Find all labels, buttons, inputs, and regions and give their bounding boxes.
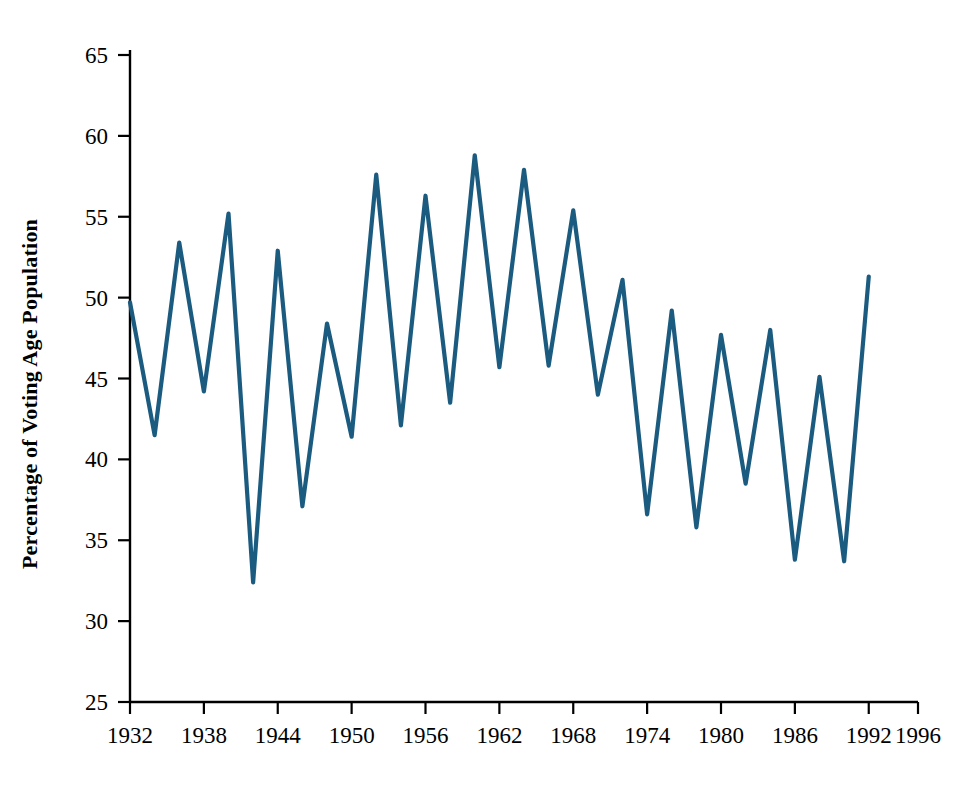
- x-tick-label: 1996: [895, 723, 941, 748]
- line-chart-plot: 253035404550556065 193219381944195019561…: [0, 0, 977, 787]
- x-axis-ticks: 1932193819441950195619621968197419801986…: [107, 702, 941, 748]
- y-axis-ticks: 253035404550556065: [85, 43, 130, 715]
- x-tick-label: 1938: [181, 723, 227, 748]
- chart-container: Percentage of Voting Age Population 2530…: [0, 0, 977, 787]
- y-tick-label: 40: [85, 447, 108, 472]
- y-tick-label: 65: [85, 43, 108, 68]
- x-tick-label: 1962: [476, 723, 522, 748]
- y-tick-label: 35: [85, 528, 108, 553]
- y-tick-label: 50: [85, 286, 108, 311]
- x-tick-label: 1968: [550, 723, 596, 748]
- x-tick-label: 1950: [329, 723, 375, 748]
- x-tick-label: 1956: [403, 723, 449, 748]
- y-tick-label: 55: [85, 205, 108, 230]
- y-tick-label: 25: [85, 690, 108, 715]
- x-tick-label: 1944: [255, 723, 302, 748]
- x-tick-label: 1974: [624, 723, 671, 748]
- data-series-line: [130, 155, 869, 582]
- x-tick-label: 1980: [698, 723, 744, 748]
- y-tick-label: 30: [85, 609, 108, 634]
- y-tick-label: 45: [85, 367, 108, 392]
- y-tick-label: 60: [85, 124, 108, 149]
- x-tick-label: 1932: [107, 723, 153, 748]
- x-tick-label: 1992: [846, 723, 892, 748]
- x-tick-label: 1986: [772, 723, 818, 748]
